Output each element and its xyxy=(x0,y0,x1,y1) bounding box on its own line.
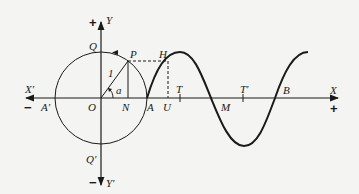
point-u: U xyxy=(163,101,172,113)
radius-label: 1 xyxy=(108,67,114,79)
x-minus-sign: − xyxy=(24,100,32,115)
angle-label: a xyxy=(116,84,122,96)
point-p: P xyxy=(129,48,137,60)
x-axis-label: X xyxy=(329,84,338,96)
point-h: H xyxy=(158,48,168,60)
point-t-prime: T' xyxy=(240,83,249,95)
x-plus-sign: + xyxy=(330,101,338,116)
unit-circle-sine-diagram: + Y − Y' X' − X + Q P 1 a A' O N A Q' H … xyxy=(0,0,359,194)
point-n: N xyxy=(121,101,130,113)
sine-wave xyxy=(147,52,308,146)
y-negative-label: Y' xyxy=(106,177,115,189)
point-b: B xyxy=(283,84,290,96)
radius-op xyxy=(101,61,128,98)
point-a: A xyxy=(146,101,154,113)
point-m: M xyxy=(220,101,231,113)
y-axis-label: Y xyxy=(106,14,114,26)
point-q: Q xyxy=(89,40,97,52)
x-negative-label: X' xyxy=(24,83,35,95)
point-t: T xyxy=(176,83,183,95)
point-q-prime: Q' xyxy=(86,153,97,165)
point-o: O xyxy=(88,101,96,113)
y-minus-sign: − xyxy=(89,175,97,190)
y-plus-sign: + xyxy=(89,15,97,30)
point-a-prime: A' xyxy=(40,101,51,113)
